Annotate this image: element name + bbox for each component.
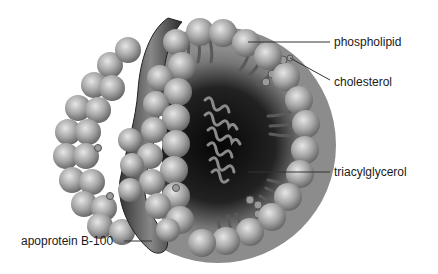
label-apoprotein-b100: apoprotein B-100 bbox=[21, 234, 113, 248]
label-cholesterol: cholesterol bbox=[334, 75, 392, 89]
label-phospholipid: phospholipid bbox=[334, 35, 401, 49]
particle-surface bbox=[53, 18, 196, 253]
label-triacylglycerol: triacylglycerol bbox=[334, 165, 407, 179]
